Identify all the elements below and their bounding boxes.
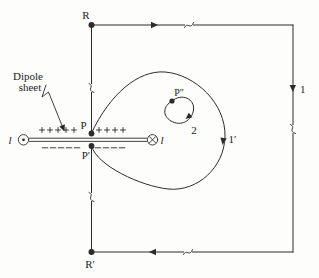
point-P-dot	[89, 131, 95, 137]
dipole-sheet-circuit-figure: R R′ P P′ P″ 1 1′ 2 l l Dipole sheet	[0, 0, 319, 278]
leader-zigzag-line	[42, 85, 63, 128]
loop-1-prime-arrow-icon	[219, 138, 226, 146]
squiggle-break-icon	[89, 84, 95, 93]
node-R-dot	[89, 22, 95, 28]
label-P: P	[80, 119, 86, 131]
squiggle-break-icon	[89, 193, 95, 202]
plus-charge	[48, 128, 53, 133]
label-path-1: 1	[300, 83, 306, 95]
plus-charge	[113, 128, 118, 133]
current-in-icon	[147, 135, 157, 145]
label-current-left: l	[8, 134, 11, 146]
plus-charges-right	[97, 128, 126, 133]
arrow-left-icon	[149, 249, 156, 255]
plus-charge	[97, 128, 102, 133]
dipole-sheet	[18, 135, 157, 145]
plus-charge	[56, 128, 61, 133]
dipole-sheet-leader	[42, 85, 67, 133]
label-P-prime: P′	[82, 149, 91, 161]
label-R: R	[82, 9, 90, 21]
current-out-icon	[18, 135, 28, 145]
plus-charges-left	[40, 128, 77, 133]
plus-charge	[40, 128, 45, 133]
squiggle-break-icon	[290, 125, 296, 134]
plus-charge	[121, 128, 126, 133]
figure-labels: R R′ P P′ P″ 1 1′ 2 l l Dipole sheet	[8, 9, 305, 270]
label-current-right: l	[161, 134, 164, 146]
label-R-prime: R′	[85, 258, 95, 270]
plus-charge	[72, 128, 77, 133]
label-path-1-prime: 1′	[229, 133, 237, 145]
squiggle-break-icon	[184, 249, 193, 255]
point-P-double-prime-dot	[169, 98, 174, 103]
loop-2-path	[165, 97, 194, 123]
squiggle-break-icon	[185, 22, 194, 28]
loop-1-prime-path	[92, 72, 226, 189]
label-dipole-sheet-line2: sheet	[19, 81, 42, 93]
plus-charge	[105, 128, 110, 133]
node-R-prime-dot	[89, 249, 95, 255]
figure-canvas: R R′ P P′ P″ 1 1′ 2 l l Dipole sheet	[0, 0, 319, 278]
label-path-2: 2	[191, 124, 197, 136]
arrow-down-icon	[290, 85, 296, 92]
loop-1-prime	[92, 72, 227, 189]
arrow-right-icon	[151, 22, 158, 28]
label-P-double-prime: P″	[174, 87, 184, 98]
loop-2	[165, 97, 194, 123]
